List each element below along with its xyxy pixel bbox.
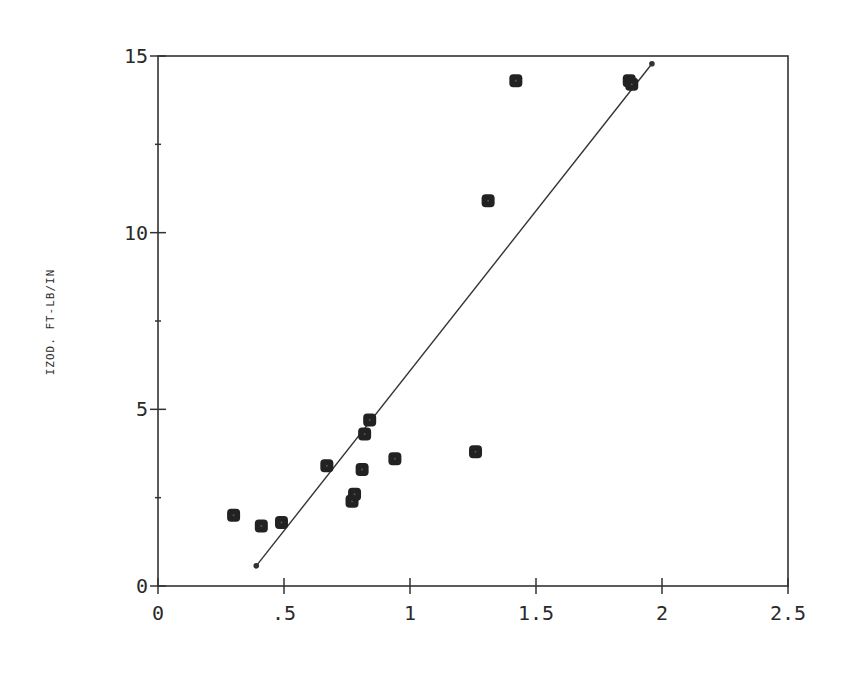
data-points [227, 74, 638, 532]
fit-endpoint [649, 61, 655, 67]
fit-line [253, 61, 654, 569]
y-tick-label: 5 [136, 397, 148, 421]
x-tick-label: 1 [404, 601, 416, 625]
fit-endpoint [253, 563, 259, 569]
y-axis: 051015 [124, 44, 166, 598]
x-tick-label: 1.5 [518, 601, 554, 625]
y-tick-label: 10 [124, 221, 148, 245]
y-tick-label: 0 [136, 574, 148, 598]
y-tick-label: 15 [124, 44, 148, 68]
plot-frame [158, 56, 788, 586]
x-tick-label: 2 [656, 601, 668, 625]
x-tick-label: .5 [272, 601, 296, 625]
scatter-chart: 0.511.522.5 051015 IZOD. FT-LB/IN [0, 0, 843, 677]
x-axis: 0.511.522.5 [152, 578, 806, 625]
x-tick-label: 0 [152, 601, 164, 625]
y-axis-label: IZOD. FT-LB/IN [44, 269, 57, 376]
x-tick-label: 2.5 [770, 601, 806, 625]
